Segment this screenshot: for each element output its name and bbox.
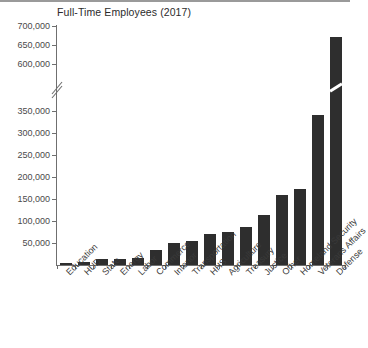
x-tick-label: State [100,255,122,277]
